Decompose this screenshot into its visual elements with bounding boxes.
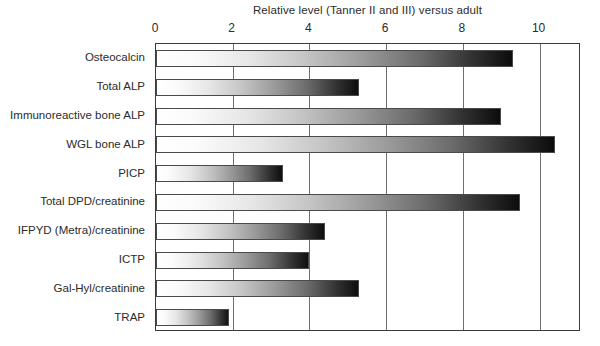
y-axis-category-labels: OsteocalcinTotal ALPImmunoreactive bone … (0, 43, 151, 331)
x-tick-label: 2 (228, 21, 235, 35)
bar-chart-figure: Relative level (Tanner II and III) versu… (0, 0, 600, 346)
y-tick-label: PICP (118, 167, 145, 179)
x-tick-label: 4 (305, 21, 312, 35)
bar (156, 165, 283, 182)
x-tick-label: 8 (459, 21, 466, 35)
bar (156, 280, 359, 297)
y-tick-label: Total ALP (96, 80, 145, 92)
y-tick-label: Osteocalcin (85, 51, 145, 63)
y-tick-label: ICTP (119, 253, 145, 265)
bar (156, 50, 513, 67)
bar (156, 194, 520, 211)
bars-layer (156, 44, 579, 330)
bar (156, 108, 501, 125)
x-tick-label: 6 (382, 21, 389, 35)
y-tick-label: Immunoreactive bone ALP (10, 109, 145, 121)
bar (156, 136, 555, 153)
bar (156, 309, 229, 326)
y-tick-label: IFPYD (Metra)/creatinine (18, 224, 145, 236)
bar (156, 252, 309, 269)
x-tick-label: 0 (152, 21, 159, 35)
y-tick-label: WGL bone ALP (66, 138, 145, 150)
y-tick-label: Gal-Hyl/creatinine (54, 282, 145, 294)
y-tick-label: TRAP (114, 311, 145, 323)
y-tick-label: Total DPD/creatinine (40, 195, 145, 207)
x-axis-tick-labels: 0246810 (0, 21, 600, 39)
chart-title: Relative level (Tanner II and III) versu… (155, 4, 580, 16)
x-tick-label: 10 (532, 21, 545, 35)
bar (156, 223, 325, 240)
bar (156, 79, 359, 96)
plot-area (155, 43, 580, 331)
